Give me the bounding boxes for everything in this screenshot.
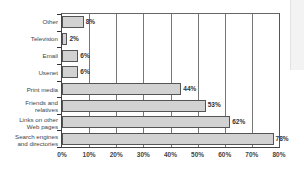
category-label-text: Usenet bbox=[38, 69, 58, 76]
chart-plot-area: 8%2%6%6%44%53%62%78% bbox=[61, 13, 280, 148]
y-tick-mark bbox=[57, 114, 61, 115]
y-tick-mark bbox=[57, 64, 61, 65]
x-tick-label: 80% bbox=[272, 151, 285, 158]
bar bbox=[62, 100, 206, 112]
y-tick-mark bbox=[57, 97, 61, 98]
bar bbox=[62, 116, 230, 128]
category-label: Television bbox=[31, 35, 58, 42]
value-label: 2% bbox=[69, 35, 78, 42]
category-label: Search enginesand directories bbox=[15, 133, 58, 147]
value-label: 78% bbox=[276, 135, 289, 142]
category-label-text: Search engines bbox=[15, 133, 58, 140]
bar bbox=[62, 33, 67, 45]
x-tick-label: 20% bbox=[110, 151, 123, 158]
category-label-text: Other bbox=[43, 18, 58, 25]
bar bbox=[62, 50, 78, 62]
category-label-text: Email bbox=[43, 52, 58, 59]
category-label-text: Web pages bbox=[27, 123, 58, 130]
value-label: 53% bbox=[208, 101, 221, 108]
y-tick-mark bbox=[57, 14, 61, 15]
y-tick-mark bbox=[57, 130, 61, 131]
category-label-text: Links on other bbox=[19, 116, 58, 123]
bar bbox=[62, 66, 78, 78]
x-tick-label: 50% bbox=[191, 151, 204, 158]
category-label-text: relatives bbox=[35, 106, 58, 113]
category-label-text: Television bbox=[31, 35, 58, 42]
x-tick-label: 0% bbox=[57, 151, 66, 158]
category-label: Print media bbox=[27, 86, 58, 93]
bar bbox=[62, 133, 274, 145]
category-label: Email bbox=[43, 52, 58, 59]
value-label: 44% bbox=[183, 85, 196, 92]
x-tick-label: 30% bbox=[137, 151, 150, 158]
category-label-text: Print media bbox=[27, 86, 58, 93]
x-tick-label: 10% bbox=[83, 151, 96, 158]
y-tick-mark bbox=[57, 147, 61, 148]
category-label-text: and directories bbox=[17, 140, 58, 147]
x-tick-label: 70% bbox=[245, 151, 258, 158]
x-tick-label: 60% bbox=[218, 151, 231, 158]
category-label-text: Friends and bbox=[25, 99, 58, 106]
x-tick-label: 40% bbox=[164, 151, 177, 158]
value-label: 6% bbox=[80, 68, 89, 75]
side-panel bbox=[290, 0, 304, 70]
value-label: 62% bbox=[232, 118, 245, 125]
y-tick-mark bbox=[57, 47, 61, 48]
y-tick-mark bbox=[57, 31, 61, 32]
category-label: Usenet bbox=[38, 69, 58, 76]
bar bbox=[62, 83, 181, 95]
category-label: Friends andrelatives bbox=[25, 99, 58, 113]
gridline bbox=[252, 14, 253, 147]
category-label: Other bbox=[43, 18, 58, 25]
y-tick-mark bbox=[57, 81, 61, 82]
value-label: 6% bbox=[80, 52, 89, 59]
bar bbox=[62, 16, 84, 28]
category-label: Links on otherWeb pages bbox=[19, 116, 58, 130]
value-label: 8% bbox=[86, 18, 95, 25]
